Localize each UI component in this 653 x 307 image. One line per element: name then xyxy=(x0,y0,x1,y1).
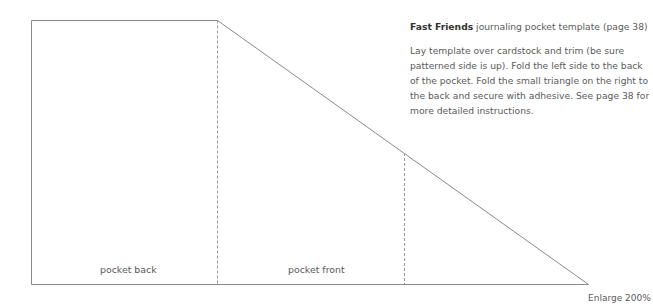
caption-title: Fast Friends journaling pocket template … xyxy=(410,19,650,34)
pocket-back-label: pocket back xyxy=(100,264,157,275)
pocket-front-label: pocket front xyxy=(288,264,345,275)
enlarge-note: Enlarge 200% xyxy=(588,293,651,303)
caption-title-bold: Fast Friends xyxy=(410,21,473,32)
template-caption: Fast Friends journaling pocket template … xyxy=(410,19,650,118)
caption-title-rest: journaling pocket template (page 38) xyxy=(473,21,647,32)
caption-instructions: Lay template over cardstock and trim (be… xyxy=(410,43,650,118)
